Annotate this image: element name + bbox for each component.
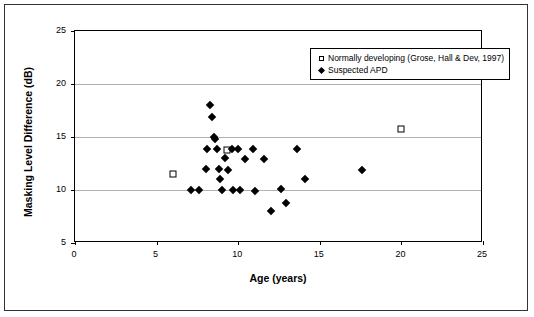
data-point-suspected-apd [206, 101, 214, 109]
gridline [75, 84, 481, 85]
data-point-suspected-apd [293, 144, 301, 152]
data-point-suspected-apd [249, 144, 257, 152]
x-tick [157, 241, 158, 245]
x-axis-label: Age (years) [74, 272, 482, 284]
data-point-suspected-apd [240, 155, 248, 163]
x-tick-label: 10 [232, 249, 242, 259]
x-tick-label: 25 [477, 249, 487, 259]
chart-page: Masking Level Difference (dB) Age (years… [0, 0, 534, 317]
data-point-suspected-apd [358, 166, 366, 174]
data-point-suspected-apd [201, 165, 209, 173]
y-tick [71, 84, 75, 85]
data-point-suspected-apd [250, 187, 258, 195]
y-axis-label: Masking Level Difference (dB) [22, 42, 34, 242]
gridline [75, 137, 481, 138]
x-tick-label: 15 [314, 249, 324, 259]
data-point-suspected-apd [281, 198, 289, 206]
y-tick-label: 5 [40, 237, 66, 247]
data-point-suspected-apd [276, 185, 284, 193]
data-point-suspected-apd [221, 154, 229, 162]
legend-label: Normally developing (Grose, Hall & Dev, … [328, 52, 504, 64]
open-square-icon [315, 52, 327, 64]
x-tick-label: 0 [71, 249, 76, 259]
y-tick [71, 137, 75, 138]
x-tick [401, 241, 402, 245]
legend-item-normally-developing: Normally developing (Grose, Hall & Dev, … [315, 52, 504, 64]
data-point-suspected-apd [234, 144, 242, 152]
data-point-suspected-apd [213, 144, 221, 152]
plot-area: Normally developing (Grose, Hall & Dev, … [74, 30, 482, 242]
legend-label: Suspected APD [328, 64, 388, 76]
data-point-suspected-apd [214, 165, 222, 173]
data-point-suspected-apd [301, 175, 309, 183]
chart-legend: Normally developing (Grose, Hall & Dev, … [310, 48, 510, 80]
data-point-suspected-apd [218, 186, 226, 194]
filled-diamond-icon [315, 64, 327, 76]
y-tick-label: 20 [40, 78, 66, 88]
data-point-suspected-apd [208, 113, 216, 121]
data-point-suspected-apd [203, 144, 211, 152]
y-tick-label: 10 [40, 184, 66, 194]
x-tick-label: 20 [395, 249, 405, 259]
data-point-suspected-apd [216, 175, 224, 183]
y-tick [71, 190, 75, 191]
data-point-suspected-apd [195, 186, 203, 194]
data-point-suspected-apd [224, 166, 232, 174]
x-tick-label: 5 [153, 249, 158, 259]
y-tick [71, 31, 75, 32]
legend-item-suspected-apd: Suspected APD [315, 64, 504, 76]
data-point-suspected-apd [236, 186, 244, 194]
y-tick-label: 25 [40, 25, 66, 35]
data-point-normally-developing [398, 125, 405, 132]
y-tick-label: 15 [40, 131, 66, 141]
x-tick [483, 241, 484, 245]
x-tick [238, 241, 239, 245]
x-tick [320, 241, 321, 245]
x-tick [75, 241, 76, 245]
data-point-normally-developing [169, 171, 176, 178]
data-point-suspected-apd [267, 207, 275, 215]
data-point-suspected-apd [260, 155, 268, 163]
